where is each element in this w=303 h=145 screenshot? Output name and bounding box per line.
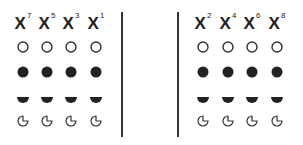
pacman-circle-icon	[18, 116, 282, 126]
diagram-canvas: X7 X5 X3 X1 X2 X4 X6 X8	[0, 0, 303, 145]
open-circle-icon	[18, 42, 282, 52]
half-circle-icon	[17, 97, 283, 103]
symbol-grid	[0, 0, 303, 145]
filled-circle-icon	[18, 67, 283, 78]
